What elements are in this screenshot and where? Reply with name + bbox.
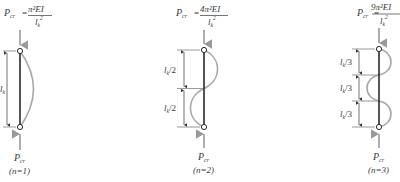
segment-label: lk — [0, 84, 6, 95]
formula-eq: = — [194, 8, 199, 18]
buckling-diagram: Pcr = π²EI lk2 lk Pcr (n=1) Pcr = 4π²EI … — [0, 0, 400, 182]
mode-label: (n=3) — [368, 165, 389, 175]
pin-support-top-icon — [17, 48, 22, 53]
segment-label: lk/2 — [164, 103, 176, 114]
mode-label: (n=2) — [193, 165, 214, 175]
bottom-load-label: Pcr — [197, 151, 210, 163]
buckled-shape-mode1 — [20, 51, 34, 127]
pin-support-bottom-icon — [201, 124, 206, 129]
case-n1: Pcr = π²EI lk2 lk Pcr (n=1) — [0, 4, 52, 176]
formula-denominator: lk2 — [208, 15, 216, 28]
segment-label: lk/3 — [340, 109, 352, 120]
formula-numerator: π²EI — [28, 4, 45, 14]
bottom-load-label: Pcr — [13, 152, 26, 164]
formula-n2: Pcr = 4π²EI lk2 — [175, 4, 228, 28]
formula-lhs: Pcr — [175, 7, 188, 19]
pin-support-bottom-icon — [17, 124, 22, 129]
formula-numerator: 9π²EI — [371, 2, 392, 12]
mode-label: (n=1) — [9, 166, 30, 176]
formula-n3: Pcr = 9π²EI lk2 — [356, 2, 400, 27]
formula-lhs: Pcr — [356, 7, 369, 19]
case-n3: Pcr = 9π²EI lk2 lk/3 lk/3 lk/3 Pcr (n=3) — [340, 2, 400, 175]
formula-eq: = — [22, 8, 27, 18]
formula-lhs: Pcr — [3, 7, 16, 19]
bottom-load-label: Pcr — [372, 151, 385, 163]
pin-support-bottom-icon — [376, 124, 381, 129]
pin-support-top-icon — [201, 47, 206, 52]
formula-numerator: 4π²EI — [200, 4, 221, 14]
segment-label: lk/2 — [164, 65, 176, 76]
case-n2: Pcr = 4π²EI lk2 lk/2 lk/2 Pcr (n=2) — [164, 4, 228, 175]
segment-label: lk/3 — [340, 57, 352, 68]
formula-n1: Pcr = π²EI lk2 — [3, 4, 52, 28]
pin-support-top-icon — [376, 46, 381, 51]
formula-denominator: lk2 — [35, 15, 43, 28]
formula-denominator: lk2 — [380, 14, 388, 27]
segment-label: lk/3 — [340, 83, 352, 94]
